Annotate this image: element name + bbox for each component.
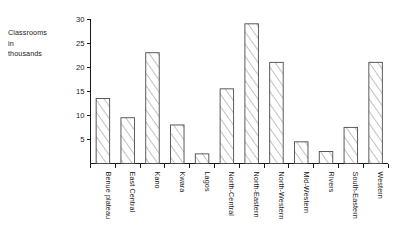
y-tick-label: 20 bbox=[76, 63, 84, 72]
category-label: Kano bbox=[153, 172, 162, 189]
y-axis-title-line-3: thousands bbox=[8, 49, 78, 60]
category-label: North-Western bbox=[277, 172, 286, 220]
category-label: Rivers bbox=[327, 172, 336, 193]
bar-chart: Classrooms in thousands 51015202530 Benu… bbox=[0, 0, 394, 235]
category-label: Kwara bbox=[178, 172, 187, 193]
y-tick-label: 5 bbox=[80, 135, 84, 144]
y-tick-label: 30 bbox=[76, 15, 84, 24]
category-label: North-Eastern bbox=[252, 172, 261, 218]
bar bbox=[121, 118, 135, 164]
bars bbox=[96, 24, 382, 164]
bar bbox=[146, 53, 160, 164]
y-axis-title-line-2: in bbox=[8, 39, 78, 50]
y-tick-label: 10 bbox=[76, 111, 84, 120]
bar bbox=[294, 142, 308, 164]
y-axis-title: Classrooms in thousands bbox=[8, 28, 78, 60]
bar bbox=[319, 151, 333, 163]
bar bbox=[369, 62, 383, 163]
bar bbox=[96, 98, 110, 163]
bar bbox=[171, 125, 185, 164]
bar bbox=[344, 127, 358, 163]
y-axis-title-line-1: Classrooms bbox=[8, 28, 78, 39]
bar bbox=[270, 62, 284, 163]
category-label: Benue plateau bbox=[104, 172, 113, 220]
bar bbox=[195, 154, 209, 164]
category-labels: Benue plateauEast CentralKanoKwaraLagosN… bbox=[104, 172, 386, 220]
category-label: North-Central bbox=[227, 172, 236, 217]
bar bbox=[245, 24, 259, 164]
category-label: South-Eastern bbox=[351, 172, 360, 219]
bar bbox=[220, 89, 234, 164]
y-tick-label: 15 bbox=[76, 87, 84, 96]
category-label: Western bbox=[376, 172, 385, 199]
category-label: East Central bbox=[128, 172, 137, 213]
category-label: Mid-Western bbox=[302, 172, 311, 214]
category-label: Lagos bbox=[203, 172, 212, 192]
